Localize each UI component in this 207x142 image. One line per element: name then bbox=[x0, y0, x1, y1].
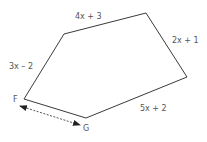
side-label-left: 3x – 2 bbox=[9, 62, 33, 71]
pentagon-shape bbox=[24, 13, 187, 118]
side-label-top: 4x + 3 bbox=[75, 12, 102, 21]
dashed-double-arrow bbox=[20, 106, 80, 125]
side-label-right-upper: 2x + 1 bbox=[172, 36, 199, 45]
pentagon-diagram: 4x + 3 2x + 1 3x – 2 5x + 2 F G bbox=[0, 0, 207, 142]
vertex-label-g: G bbox=[83, 124, 89, 133]
side-label-bottom-right: 5x + 2 bbox=[140, 104, 167, 113]
vertex-label-f: F bbox=[13, 95, 18, 104]
